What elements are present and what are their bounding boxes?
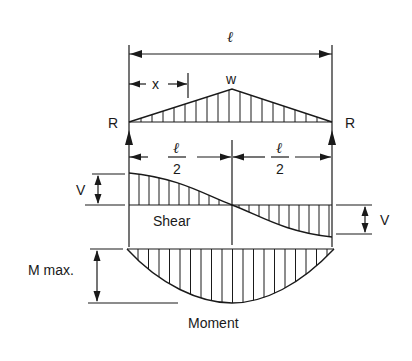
shear-right-arrow-down-icon — [362, 223, 369, 233]
span-label: ℓ — [227, 28, 233, 46]
load-label: w — [225, 71, 237, 87]
shear-caption: Shear — [153, 213, 191, 229]
x-arrow-right-icon — [177, 81, 187, 88]
shear-left-arrow-up-icon — [95, 175, 102, 185]
beam-diagram: ℓ x w R R ℓ 2 ℓ 2 Shear V — [0, 0, 412, 361]
half-span-left-num: ℓ — [173, 139, 179, 157]
moment-max-label: M max. — [28, 262, 74, 278]
shear-right-arrow-up-icon — [362, 206, 369, 216]
span-arrow-right-icon — [319, 50, 331, 58]
x-arrow-left-icon — [130, 81, 140, 88]
reaction-right-label: R — [345, 115, 355, 131]
shear-left-label: V — [76, 182, 86, 198]
reaction-left-label: R — [108, 115, 118, 131]
x-label: x — [152, 76, 159, 92]
half-left-arrow-a-icon — [130, 154, 141, 161]
half-right-arrow-b-icon — [320, 154, 331, 161]
half-left-arrow-b-icon — [220, 154, 231, 161]
shear-left-arrow-down-icon — [95, 194, 102, 204]
half-span-right-den: 2 — [276, 161, 284, 177]
half-span-right-num: ℓ — [276, 139, 282, 157]
moment-diagram — [127, 249, 334, 303]
shear-right-label: V — [380, 212, 390, 228]
moment-arrow-up-icon — [94, 250, 101, 261]
half-span-left-den: 2 — [173, 161, 181, 177]
reaction-left-arrow-icon — [125, 130, 133, 145]
half-right-arrow-a-icon — [233, 154, 244, 161]
reaction-right-arrow-icon — [328, 130, 336, 145]
triangular-load — [129, 89, 332, 122]
moment-caption: Moment — [188, 315, 239, 331]
span-arrow-left-icon — [130, 50, 142, 58]
moment-arrow-down-icon — [94, 291, 101, 302]
